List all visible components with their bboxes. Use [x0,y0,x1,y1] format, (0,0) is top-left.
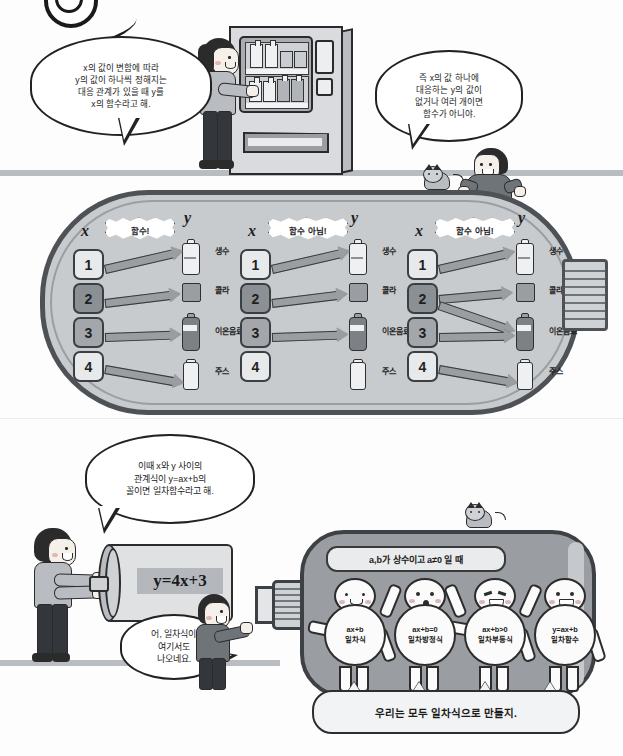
mapping-arrow [104,249,176,274]
vending-shelf-top [245,42,309,75]
codomain-label: 생수 [382,245,396,256]
domain-box-4: 4 [407,351,438,382]
bubble-line: x의 값이 변함에 따라 [75,62,166,74]
mapping-arrow [272,331,340,342]
cat-ear [433,164,441,170]
mapping-arrow [104,291,173,308]
eye [570,592,574,596]
verdict-badge: 함수 아님! [268,217,348,243]
figure-term: 일차식 [345,635,366,645]
leg [496,666,509,692]
juice-bottle-icon [263,81,276,102]
figure-expression: y=ax+b [552,625,577,635]
eye [416,592,420,596]
figure-term: 일차방정식 [408,635,443,645]
bottle-label [350,325,364,331]
eye [489,163,492,166]
mouth [62,553,73,561]
bottle-label [183,325,197,331]
group-speech-banner: 우리는 모두 일차식으로 만들지. [312,690,580,734]
juice-bottle-icon [183,362,199,390]
hand [240,622,253,634]
y-axis-label: y [184,209,191,227]
eye [484,591,493,596]
capsule-nozzle [562,259,608,331]
mapping-arrow [438,249,508,274]
bottle-label [351,257,363,259]
water-bottle-icon [516,243,534,275]
vending-machine-dispenser-slot[interactable] [243,132,329,153]
y-axis-label: y [518,209,525,227]
cat-head [465,504,485,521]
cat-eye [470,511,472,513]
domain-box-4: 4 [240,351,271,382]
cat-eye [478,511,480,513]
section-divider [0,418,623,419]
mapping-arrow [271,249,343,274]
leg [212,658,226,690]
codomain-label: 콜라 [215,284,229,295]
figure-expression: ax+b=0 [412,625,437,635]
eye [362,593,365,596]
cola-can-icon [280,51,293,68]
vending-machine-button[interactable] [316,78,333,96]
bottle-label [518,257,530,259]
bubble-tail-inner [99,506,117,528]
mapping-arrow [438,365,510,386]
cat-ear [425,164,433,170]
figure-term: 일차함수 [551,635,579,645]
cola-can-icon [516,283,535,302]
condition-banner: a,b가 상수이고 a≠0 일 때 [326,546,506,572]
figure-term: 일차부등식 [478,635,513,645]
x-axis-label: x [415,222,423,240]
leg [217,111,232,165]
figure-linear-equation: ax+b=0 일차방정식 [392,578,454,690]
mouth [216,616,227,624]
eye [556,592,560,596]
leg [566,666,579,692]
water-bottle-icon [349,243,367,275]
linear-expression-capsule: a,b가 상수이고 a≠0 일 때 ax+b 일차식 [300,530,596,698]
water-bottle-icon [250,44,263,68]
sports-drink-bottle-icon [182,317,200,351]
bubble-line: 함수가 아니야. [415,108,484,120]
verdict-badge: 함수 아님! [435,217,515,243]
verdict-badge: 함수! [105,217,175,243]
cat-eye [436,173,438,175]
vending-machine-keypad[interactable] [315,40,334,74]
shelf-price-strip [246,69,308,74]
bubble-line: 꼴이면 일차함수라고 해. [126,485,214,498]
mapping-diagram-2: x y 함수 아님! 1 2 3 4 생수 콜라 이온음료 [230,195,402,410]
bottle-label [517,325,531,331]
eye [345,593,348,596]
cola-can-icon [294,51,307,68]
domain-box-3: 3 [407,317,438,348]
shoe [199,160,219,169]
cheek [339,600,345,604]
figure-belly-label: ax+b>0 일차부등식 [464,604,526,666]
cylinder-knob[interactable] [89,576,109,592]
domain-box-3: 3 [240,317,271,348]
sports-drink-bottle-icon [516,317,534,351]
speech-bubble-not-a-function: 즉 x의 값 하나에 대응하는 y의 값이 없거나 여러 개이면 함수가 아니야… [375,50,523,142]
domain-box-2: 2 [73,283,104,314]
x-axis-label: x [81,222,89,240]
mouth [225,62,236,69]
eye [498,591,507,596]
shelf-price-strip [246,103,308,108]
cat-ear [475,502,483,508]
eye [228,56,231,59]
mapping-diagram-3: x y 함수 아님! 1 2 3 4 생수 콜라 이온음료 [397,195,569,410]
cat-on-capsule [424,166,456,190]
bubble-tail-inner [119,116,137,140]
cola-can-icon [349,283,368,302]
cheek [215,61,221,65]
figure-linear-expression: ax+b 일차식 [322,578,384,690]
cheek [575,600,581,604]
cheek [365,600,371,604]
boy-pushing-plunger [196,594,248,690]
bubble-line: 관계식이 y=ax+b의 [126,473,214,486]
leg [199,658,213,690]
sports-drink-bottle-icon [349,317,367,351]
eye [480,163,483,166]
